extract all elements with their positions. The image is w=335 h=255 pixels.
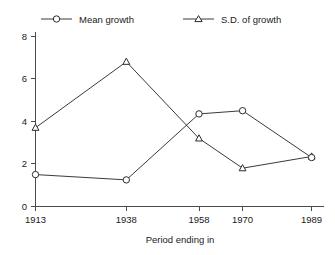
- series-line-sd-of-growth: [36, 62, 312, 168]
- x-tick-label-1958: 1958: [188, 214, 209, 225]
- legend-label-sd-of-growth: S.D. of growth: [221, 14, 281, 25]
- data-point-marker-triangle: [123, 58, 130, 64]
- series-markers-sd-of-growth: [32, 58, 315, 171]
- x-tick-label-1938: 1938: [116, 214, 137, 225]
- line-chart: Mean growth S.D. of growth 0 2 4 6 8: [0, 0, 335, 255]
- chart-container: Mean growth S.D. of growth 0 2 4 6 8: [0, 0, 335, 255]
- x-tick-label-1913: 1913: [25, 214, 46, 225]
- y-tick-label-4: 4: [22, 116, 27, 127]
- x-axis-ticks: 1913 1938 1958 1970 1989: [25, 207, 322, 226]
- chart-axes: [36, 32, 325, 207]
- y-tick-label-8: 8: [22, 31, 27, 42]
- y-tick-label-2: 2: [22, 158, 27, 169]
- legend-label-mean-growth: Mean growth: [79, 14, 134, 25]
- x-axis-title: Period ending in: [146, 234, 215, 245]
- series-line-mean-growth: [36, 111, 312, 180]
- data-point-marker-circle: [239, 108, 245, 114]
- y-axis-ticks: 0 2 4 6 8: [22, 31, 36, 212]
- legend-marker-circle-icon: [53, 16, 59, 22]
- series-mean-growth: [32, 108, 315, 184]
- data-point-marker-triangle: [32, 124, 39, 130]
- data-point-marker-circle: [196, 111, 202, 117]
- x-tick-label-1970: 1970: [232, 214, 253, 225]
- y-tick-label-0: 0: [22, 201, 27, 212]
- chart-legend: Mean growth S.D. of growth: [41, 14, 281, 25]
- series-markers-mean-growth: [32, 108, 315, 184]
- series-sd-of-growth: [32, 58, 315, 171]
- y-tick-label-6: 6: [22, 73, 27, 84]
- data-point-marker-circle: [308, 154, 314, 160]
- legend-entry-sd-of-growth[interactable]: S.D. of growth: [183, 14, 281, 25]
- data-point-marker-circle: [123, 177, 129, 183]
- data-point-marker-circle: [32, 171, 38, 177]
- x-tick-label-1989: 1989: [301, 214, 322, 225]
- legend-entry-mean-growth[interactable]: Mean growth: [41, 14, 134, 25]
